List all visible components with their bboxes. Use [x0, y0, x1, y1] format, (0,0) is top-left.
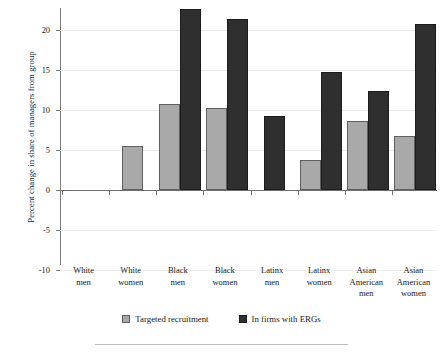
bar-targeted-recruitment [159, 104, 180, 190]
x-axis-label-line: Asian [390, 265, 437, 277]
x-axis-label-line: White [60, 265, 107, 277]
bar-group [107, 8, 154, 265]
bar-in-firms-with-ergs [368, 91, 389, 190]
legend-label: Targeted recruitment [135, 314, 208, 324]
legend-item[interactable]: Targeted recruitment [122, 314, 208, 324]
x-axis-labels: WhitemenWhitewomenBlackmenBlackwomenLati… [60, 265, 437, 313]
x-axis-label: AsianAmericanmen [343, 265, 390, 300]
bar-targeted-recruitment [347, 121, 368, 190]
x-axis-label: Blackmen [154, 265, 201, 288]
x-axis-label: Whitemen [60, 265, 107, 288]
y-axis-title: Percent change in share of managers from… [26, 12, 36, 262]
x-axis-label-line: men [60, 277, 107, 289]
x-axis-label-line: women [390, 288, 437, 300]
bar-in-firms-with-ergs [321, 72, 342, 190]
x-axis-label-line: Black [201, 265, 248, 277]
bar-chart-figure: Percent change in share of managers from… [0, 0, 443, 356]
x-tick [203, 190, 204, 195]
x-tick [62, 190, 63, 195]
x-axis-label: AsianAmericanwomen [390, 265, 437, 300]
bar-group [296, 8, 343, 265]
x-tick [345, 190, 346, 195]
x-axis-label-line: White [107, 265, 154, 277]
bar-targeted-recruitment [122, 146, 143, 190]
bar-group [390, 8, 437, 265]
bar-targeted-recruitment [206, 108, 227, 190]
y-tick-label: 20 [42, 26, 50, 35]
y-tick-label: -10 [39, 266, 50, 275]
x-tick [392, 190, 393, 195]
x-axis-label-line: women [107, 277, 154, 289]
x-axis-label: Latinxwomen [296, 265, 343, 288]
legend-item[interactable]: In firms with ERGs [239, 314, 321, 324]
legend-label: In firms with ERGs [252, 314, 321, 324]
bar-group [201, 8, 248, 265]
x-axis-label-line: men [249, 277, 296, 289]
bar-group [154, 8, 201, 265]
footer-divider [95, 344, 348, 345]
x-axis-label-line: American [343, 277, 390, 289]
x-axis-label: Latinxmen [249, 265, 296, 288]
x-tick [109, 190, 110, 195]
bar-targeted-recruitment [300, 160, 321, 190]
x-tick [156, 190, 157, 195]
x-axis-label-line: men [343, 288, 390, 300]
x-axis-label-line: Black [154, 265, 201, 277]
x-axis-label-line: Asian [343, 265, 390, 277]
bar-in-firms-with-ergs [227, 19, 248, 190]
bar-in-firms-with-ergs [180, 9, 201, 190]
bar-in-firms-with-ergs [264, 116, 285, 190]
chart-legend: Targeted recruitmentIn firms with ERGs [0, 314, 443, 324]
plot-area: -10-505101520 [60, 8, 437, 265]
x-tick [298, 190, 299, 195]
x-axis-label-line: American [390, 277, 437, 289]
bar-group [343, 8, 390, 265]
y-tick-label: -5 [43, 226, 50, 235]
y-tick-label: 15 [42, 66, 50, 75]
x-axis-label-line: Latinx [249, 265, 296, 277]
x-axis-label-line: women [201, 277, 248, 289]
y-tick-label: 0 [46, 186, 50, 195]
y-tick-label: 5 [46, 146, 50, 155]
x-axis-label: Blackwomen [201, 265, 248, 288]
bar-group [249, 8, 296, 265]
x-axis-label-line: Latinx [296, 265, 343, 277]
x-axis-label-line: men [154, 277, 201, 289]
x-axis-label: Whitewomen [107, 265, 154, 288]
legend-swatch-icon [122, 315, 130, 323]
legend-swatch-icon [239, 315, 247, 323]
x-axis-label-line: women [296, 277, 343, 289]
bar-group [60, 8, 107, 265]
y-tick-label: 10 [42, 106, 50, 115]
bar-in-firms-with-ergs [415, 24, 436, 190]
x-tick [251, 190, 252, 195]
bar-targeted-recruitment [394, 136, 415, 190]
